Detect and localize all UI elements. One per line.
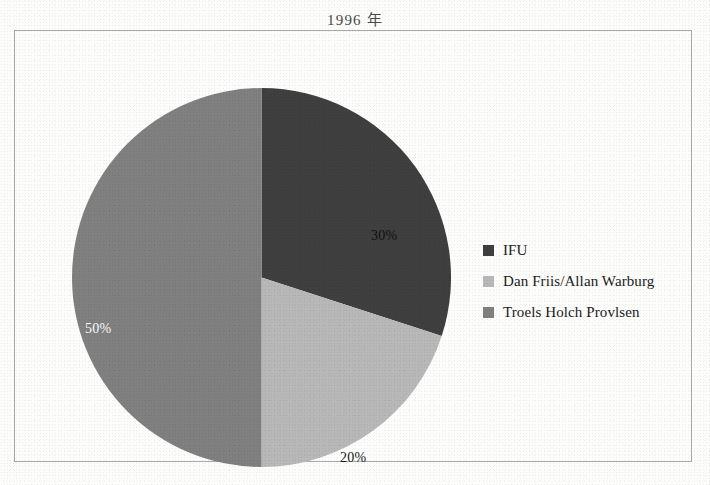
pie-label-ifu: 30% (371, 228, 398, 244)
pie-svg (72, 88, 451, 467)
legend-item-dan-friis-allan-warburg[interactable]: Dan Friis/Allan Warburg (483, 269, 698, 294)
legend: IFU Dan Friis/Allan Warburg Troels Holch… (483, 238, 698, 331)
pie-slice-troels-holch-provlsen[interactable] (72, 88, 262, 467)
plot-area-frame: 30% 20% 50% IFU Dan Friis/Allan Warburg … (14, 30, 692, 462)
legend-label: Dan Friis/Allan Warburg (503, 274, 654, 289)
chart-page: 1996 年 30% 20% 50% IFU Dan Friis/Alla (0, 0, 710, 485)
legend-item-troels-holch-provlsen[interactable]: Troels Holch Provlsen (483, 300, 698, 325)
legend-label: IFU (503, 243, 527, 258)
chart-title: 1996 年 (0, 8, 710, 29)
pie-label-dan-friis-allan-warburg: 20% (340, 450, 367, 466)
legend-swatch-icon (483, 276, 494, 287)
legend-swatch-icon (483, 307, 494, 318)
legend-item-ifu[interactable]: IFU (483, 238, 698, 263)
legend-label: Troels Holch Provlsen (503, 305, 640, 320)
pie-label-troels-holch-provlsen: 50% (85, 321, 112, 337)
pie-chart: 30% 20% 50% (72, 88, 451, 467)
legend-swatch-icon (483, 245, 494, 256)
